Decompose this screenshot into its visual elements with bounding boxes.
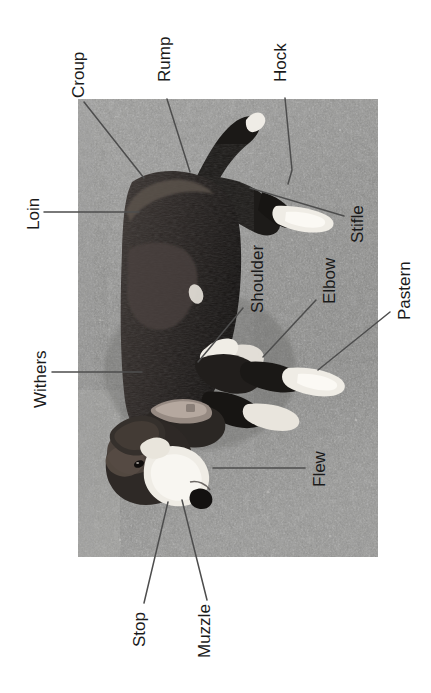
label-shoulder: Shoulder bbox=[249, 245, 266, 313]
label-elbow: Elbow bbox=[321, 258, 338, 304]
anatomy-figure: CroupRumpHockLoinStifleShoulderElbowPast… bbox=[0, 0, 431, 693]
label-hock: Hock bbox=[272, 43, 289, 82]
label-stop: Stop bbox=[131, 612, 148, 647]
label-muzzle: Muzzle bbox=[196, 604, 213, 658]
label-loin: Loin bbox=[25, 198, 42, 230]
label-withers: Withers bbox=[32, 350, 49, 408]
label-croup: Croup bbox=[70, 52, 87, 98]
photo-content bbox=[78, 99, 378, 557]
label-stifle: Stifle bbox=[349, 205, 366, 243]
label-pastern: Pastern bbox=[396, 261, 413, 320]
label-flew: Flew bbox=[311, 451, 328, 487]
dog-photograph bbox=[0, 0, 431, 693]
label-rump: Rump bbox=[156, 37, 173, 82]
